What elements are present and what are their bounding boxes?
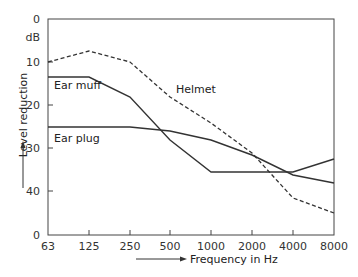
x-tick-4000: 4000 — [279, 240, 307, 253]
x-tick-125: 125 — [79, 240, 100, 253]
y-unit: dB — [25, 31, 40, 44]
y-tick-0: 0 — [33, 13, 40, 26]
label-ear-muff: Ear muff — [54, 79, 101, 92]
y-tick-40: 40 — [26, 185, 40, 198]
x-axis — [89, 230, 293, 235]
noise-reduction-chart: 0 dB 10 20 30 40 0 Level reduction 63 12… — [0, 0, 358, 277]
x-axis-label: Frequency in Hz — [190, 253, 278, 266]
x-tick-250: 250 — [120, 240, 141, 253]
x-tick-500: 500 — [160, 240, 181, 253]
x-tick-2000: 2000 — [238, 240, 266, 253]
x-tick-1000: 1000 — [197, 240, 225, 253]
x-tick-8000: 8000 — [320, 240, 348, 253]
label-helmet: Helmet — [176, 83, 217, 96]
y-tick-50: 0 — [33, 229, 40, 242]
label-ear-plug: Ear plug — [54, 132, 100, 145]
x-arrowhead-icon — [180, 257, 187, 262]
y-tick-10: 10 — [26, 56, 40, 69]
x-tick-63: 63 — [41, 240, 55, 253]
